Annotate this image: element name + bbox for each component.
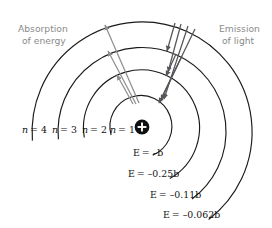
energy-label-n4-value: = –0.062b [172, 209, 220, 220]
emission-label-line2: of light [222, 35, 255, 46]
shell-label-n2: n= 2 [82, 124, 107, 135]
absorption-arrow-3 [105, 25, 139, 103]
shell-label-n3: n= 3 [52, 124, 77, 135]
shell-label-n3-symbol: n [52, 124, 58, 135]
shell-label-n4: n= 4 [22, 124, 47, 135]
shell-label-n3-value: = 3 [60, 124, 77, 135]
bohr-model-diagram: Absorption of energy Emission of light n… [0, 0, 272, 228]
shell-label-n1-value: = 1 [118, 124, 135, 135]
energy-label-n3-value: = –0.11b [159, 189, 201, 200]
emission-label-line1: Emission [219, 23, 260, 34]
emission-arrow-1 [167, 23, 175, 51]
energy-label-n1-value: = –b [142, 147, 164, 158]
emission-arrow-2 [168, 24, 181, 72]
energy-label-n4: E= –0.062b [163, 209, 220, 220]
energy-label-n1: E= –b [133, 147, 163, 158]
nucleus [135, 120, 150, 135]
shell-label-n2-symbol: n [82, 124, 88, 135]
shell-label-n4-symbol: n [22, 124, 28, 135]
absorption-label-line2: of energy [22, 35, 66, 46]
absorption-label-line1: Absorption [18, 23, 68, 34]
energy-label-n2-symbol: E [128, 168, 135, 179]
shell-label-n2-value: = 2 [90, 124, 107, 135]
energy-label-n3: E= –0.11b [150, 189, 201, 200]
emission-arrows [159, 23, 195, 103]
shell-label-n4-value: = 4 [30, 124, 47, 135]
energy-label-n4-symbol: E [163, 209, 170, 220]
emission-annotation: Emission of light [219, 23, 260, 46]
energy-label-n2-value: = –0.25b [137, 168, 179, 179]
energy-labels: E= –b E= –0.25b E= –0.11b E= –0.062b [128, 147, 220, 220]
shell-label-n1-symbol: n [110, 124, 116, 135]
energy-label-n3-symbol: E [150, 189, 157, 200]
energy-label-n1-symbol: E [133, 147, 140, 158]
absorption-annotation: Absorption of energy [18, 23, 68, 46]
shell-labels: n= 4 n= 3 n= 2 n= 1 [22, 124, 135, 135]
energy-label-n2: E= –0.25b [128, 168, 179, 179]
absorption-arrows [105, 25, 139, 104]
shell-label-n1: n= 1 [110, 124, 135, 135]
